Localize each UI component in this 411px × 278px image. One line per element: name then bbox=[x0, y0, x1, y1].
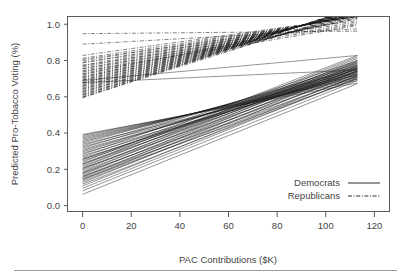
x-tick-label-40: 40 bbox=[175, 220, 186, 231]
x-tick-label-20: 20 bbox=[126, 220, 137, 231]
legend-label-republicans: Republicans bbox=[288, 190, 341, 201]
x-tick-label-80: 80 bbox=[272, 220, 283, 231]
y-tick-label-0.4: 0.4 bbox=[47, 127, 60, 138]
y-axis-title: Predicted Pro-Tobacco Voting (%) bbox=[9, 43, 20, 186]
x-tick-label-120: 120 bbox=[366, 220, 382, 231]
y-tick-label-0.0: 0.0 bbox=[47, 200, 60, 211]
x-tick-label-60: 60 bbox=[223, 220, 234, 231]
y-tick-label-1.0: 1.0 bbox=[47, 19, 60, 30]
y-tick-label-0.6: 0.6 bbox=[47, 91, 60, 102]
y-tick-label-0.2: 0.2 bbox=[47, 164, 60, 175]
x-axis-title: PAC Contributions ($K) bbox=[179, 254, 277, 265]
x-tick-label-0: 0 bbox=[80, 220, 85, 231]
chart-figure: 0.00.20.40.60.81.0 020406080100120 PAC C… bbox=[0, 0, 411, 278]
x-tick-label-100: 100 bbox=[318, 220, 334, 231]
legend-label-democrats: Democrats bbox=[294, 177, 340, 188]
y-tick-label-0.8: 0.8 bbox=[47, 55, 60, 66]
